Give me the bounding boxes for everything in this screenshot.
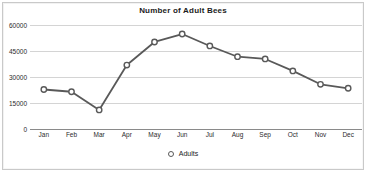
x-axis-tick-label: Mar: [94, 131, 105, 138]
data-point-marker[interactable]: [318, 82, 323, 87]
y-axis-tick-label: 15000: [9, 100, 27, 107]
data-point-marker[interactable]: [124, 62, 129, 67]
x-axis-tick-label: Dec: [342, 131, 354, 138]
x-axis-tick-label: Jan: [39, 131, 49, 138]
data-point-marker[interactable]: [262, 56, 267, 61]
x-axis-tick-label: Jun: [177, 131, 187, 138]
data-point-marker[interactable]: [96, 107, 101, 112]
x-axis-tick-label: May: [148, 131, 160, 138]
x-axis-tick-label: Feb: [66, 131, 77, 138]
series-line-adults: [44, 34, 348, 110]
x-axis-tick-label: Oct: [288, 131, 298, 138]
x-axis-tick-label: Aug: [232, 131, 244, 138]
y-axis-tick-label: 60000: [9, 22, 27, 29]
data-point-marker[interactable]: [179, 31, 184, 36]
chart-legend: Adults: [0, 150, 366, 157]
data-point-marker[interactable]: [207, 43, 212, 48]
open-circle-marker-icon: [168, 151, 174, 157]
x-axis-line: [30, 129, 362, 130]
chart-container: Number of Adult Bees 0150003000045000600…: [0, 0, 366, 172]
data-point-marker[interactable]: [69, 89, 74, 94]
y-axis-tick-label: 30000: [9, 74, 27, 81]
x-axis-tick-label: Apr: [122, 131, 132, 138]
y-axis-tick-label: 45000: [9, 48, 27, 55]
x-axis-tick-label: Sep: [259, 131, 271, 138]
y-axis-tick-label: 0: [23, 126, 27, 133]
chart-title: Number of Adult Bees: [0, 6, 366, 15]
line-series-adults: [30, 25, 362, 129]
legend-label-adults: Adults: [179, 150, 198, 157]
x-axis-tick-label: Nov: [315, 131, 327, 138]
data-point-marker[interactable]: [345, 86, 350, 91]
data-point-marker[interactable]: [235, 54, 240, 59]
x-axis-tick-label: Jul: [206, 131, 214, 138]
data-point-marker[interactable]: [152, 39, 157, 44]
data-point-marker[interactable]: [290, 68, 295, 73]
data-point-marker[interactable]: [41, 87, 46, 92]
plot-area: [30, 25, 362, 129]
y-axis-tick-labels: 015000300004500060000: [0, 0, 27, 172]
x-axis-tick-labels: JanFebMarAprMayJunJulAugSepOctNovDec: [30, 131, 362, 145]
